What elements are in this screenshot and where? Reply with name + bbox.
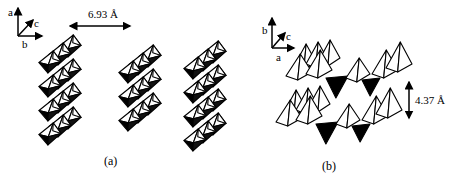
pyramid-layer: [276, 86, 402, 144]
pyramid-layer: [286, 40, 412, 98]
pyramid-face: [362, 78, 380, 96]
axis-label-b: b: [22, 38, 28, 50]
axis-label-b: b: [262, 24, 268, 36]
pyramid-face: [352, 124, 370, 142]
inverted-pyramid: [362, 78, 380, 96]
octahedron-face: [39, 111, 48, 121]
axis-arrow-diagonal: [272, 33, 285, 48]
octahedron-face: [39, 87, 48, 97]
spacing-label-a: 6.93 Å: [88, 8, 118, 20]
pyramid-face: [388, 88, 402, 118]
pyramid-face: [316, 122, 338, 144]
inverted-pyramid: [326, 76, 348, 98]
pyramid-face: [318, 86, 330, 112]
octahedron-face: [39, 135, 48, 145]
inverted-pyramid: [352, 124, 370, 142]
octahedra-chain: [39, 35, 81, 145]
octahedra-chain: [119, 45, 161, 131]
inverted-pyramid: [316, 122, 338, 144]
pyramid-face: [328, 40, 340, 66]
octahedron-face: [119, 73, 128, 83]
axis-label-a: a: [276, 51, 281, 63]
spacing-label-b: 4.37 Å: [415, 94, 445, 106]
octahedra-chains: [39, 35, 226, 151]
pyramid-face: [326, 76, 348, 98]
octahedron-face: [184, 69, 193, 79]
octahedron-face: [119, 121, 128, 131]
octahedron-face: [184, 141, 193, 151]
pyramid: [346, 58, 370, 82]
pyramid-layers: [276, 40, 412, 144]
pyramid-face: [398, 42, 412, 72]
pyramid-face: [347, 104, 360, 128]
spacing-annotation-a: 6.93 Å: [70, 8, 130, 26]
caption-a: (a): [104, 154, 117, 168]
octahedra-chain: [184, 41, 226, 151]
caption-b: (b): [322, 159, 336, 173]
axes-a: a c b: [8, 6, 42, 50]
axis-label-a: a: [8, 6, 13, 18]
axes-b: b c a: [262, 18, 294, 63]
spacing-annotation-b: 4.37 Å: [409, 82, 445, 118]
octahedron-face: [184, 93, 193, 103]
axis-arrow-diagonal: [18, 20, 33, 36]
axis-label-c: c: [34, 17, 39, 29]
pyramid-face: [357, 58, 370, 82]
octahedron-face: [39, 63, 48, 73]
pyramid: [336, 104, 360, 128]
axis-label-c: c: [286, 30, 291, 42]
octahedron-face: [184, 117, 193, 127]
crystal-structure-figure: a c b 6.93 Å b c a 4.37 Å (a) (b): [0, 0, 452, 182]
octahedron-face: [119, 97, 128, 107]
